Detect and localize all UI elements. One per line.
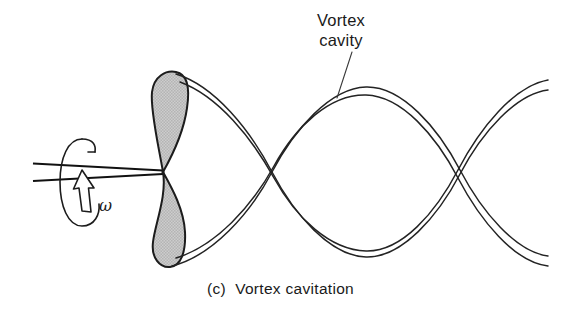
drive-shaft [33,164,163,182]
vortex-strand-b-inner [176,95,548,266]
vortex-strand-b-outer [172,87,548,266]
propeller-hub [161,170,164,173]
propeller-blade-lower [153,172,185,267]
vortex-cavity-label: Vortex cavity [285,10,397,50]
vortex-strand-lower-origin [172,87,548,266]
figure-vortex-cavitation: Vortex cavity ω (c) Vortex cavitation [0,0,561,315]
rotation-arrowhead [74,170,95,212]
shaft-bottom-line [33,174,163,181]
vortex-cavity-leader-line [337,52,352,98]
figure-caption: (c) Vortex cavitation [0,280,561,299]
propeller-blade-upper [152,72,188,172]
omega-symbol-label: ω [99,196,112,216]
rotation-indicator [60,139,99,226]
vortex-cavitation-diagram [0,0,561,315]
shaft-top-line [33,164,163,171]
rotation-ellipse-back [82,139,95,152]
